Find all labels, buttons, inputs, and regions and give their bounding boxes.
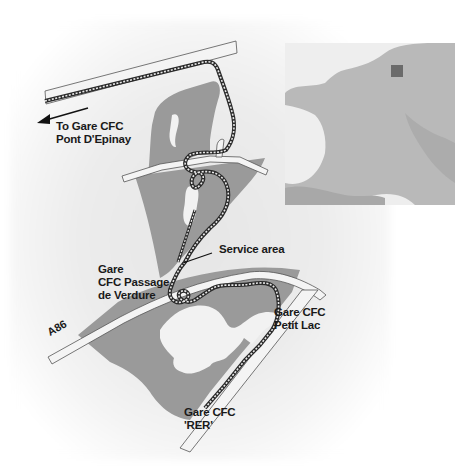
label-pont-epinay: To Gare CFC Pont D'Epinay (56, 120, 131, 146)
label-passage-verdure: Gare CFC Passage de Verdure (98, 263, 169, 302)
location-marker-icon (391, 65, 403, 77)
label-petit-lac: Gare CFC Petit Lac (274, 306, 325, 332)
label-line: To Gare CFC (56, 120, 131, 133)
label-line: CFC Passage (98, 276, 169, 289)
label-line: Gare (98, 263, 169, 276)
label-line: de Verdure (98, 289, 169, 302)
label-line: Service area (219, 243, 284, 256)
label-line: Pont D'Epinay (56, 133, 131, 146)
label-line: 'RER' (184, 419, 235, 432)
label-line: Petit Lac (274, 319, 325, 332)
france-inset-map (285, 43, 455, 205)
label-rer: Gare CFC 'RER' (184, 406, 235, 432)
france-relief (285, 43, 455, 205)
label-line: Gare CFC (184, 406, 235, 419)
label-line: Gare CFC (274, 306, 325, 319)
label-service-area: Service area (219, 243, 284, 256)
